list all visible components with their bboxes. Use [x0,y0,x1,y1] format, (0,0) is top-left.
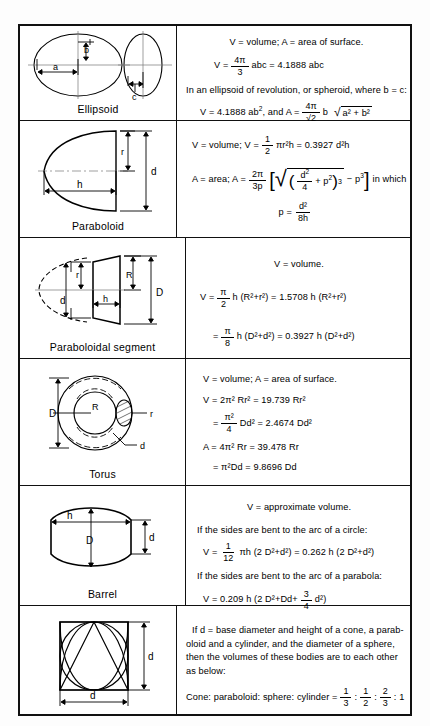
formula-line: V = 2π² Rr² = 19.739 Rr² [203,395,403,407]
dim-label-h: h [67,510,73,521]
formula-line: Cone: paraboloid: sphere: cylinder = 1 3… [186,687,404,708]
fraction-numerator: 3 [301,590,312,601]
fraction-numerator: 4π [302,102,319,113]
fraction-denominator: 3p [250,181,266,191]
formula-part: V = [200,292,214,304]
formula-line: In an ellipsoid of revolution, or sphero… [186,85,407,97]
formula-part: V = 4.1888 ab2, and A = [200,107,299,119]
formula-line: oloid and a cylinder, and the diameter o… [186,639,404,651]
formula-line: If the sides are bent to the arc of a ci… [197,525,403,537]
fraction: d² 8h [295,202,311,223]
fraction-numerator: 1 [262,135,273,146]
fraction-numerator: 1 [360,687,371,698]
fraction: π 2 [217,288,229,309]
dim-label-c: c [132,92,137,102]
fraction: π² 4 [221,413,236,434]
fraction: d24 [297,171,312,192]
dim-label-d-horizontal: d [90,690,96,701]
formula-line: as below: [186,666,404,678]
dim-label-d: d [151,166,157,177]
fraction-numerator: d2 [297,171,312,182]
formula-part: : 1 [394,692,405,704]
formula-part: in which [373,174,407,186]
formula-cell-ratios: If d = base diameter and height of a con… [177,606,411,714]
dim-label-a: a [53,62,58,72]
dim-label-R: R [126,270,133,280]
formula-part: πh (2 D²+d²) = 0.262 h (2 D²+d²) [239,547,374,559]
figure-paraboloid: r d h [20,121,176,220]
table-row: h D d Barrel V = approximate volume. If … [20,486,410,606]
formula-cell-paraboloid: V = volume; V = 1 2 πr²h = 0.3927 d²h A … [177,121,414,237]
formula-part: Dd² = 2.4674 Dd² [240,418,312,430]
figure-ellipsoid: b a c [20,26,176,103]
formula-part: p = [279,207,292,219]
formula-part: + p2 [315,176,332,188]
fraction: 1 3 [340,687,351,708]
figure-label-torus: Torus [89,468,116,485]
formula-line: If the sides are bent to the arc of a pa… [197,571,403,583]
fraction: 4π 3 [231,56,248,77]
figure-paraboloidal-segment: r R d D h [20,238,185,341]
figure-label-paraboloidal-segment: Paraboloidal segment [50,341,156,358]
formula-separator: : [354,692,357,704]
formula-line: V = 1 12 πh (2 D²+d²) = 0.262 h (2 D²+d²… [203,542,403,563]
dim-label-D: D [156,287,163,298]
fraction-denominator: 8h [295,213,311,223]
figure-cell-ratios: d d [20,606,177,714]
dim-label-d-vertical: d [148,651,154,662]
fraction: 2π 3p [249,170,266,191]
figure-cell-paraboloid: r d h Paraboloid [20,121,177,237]
fraction-denominator: 3 [234,67,245,77]
fraction: 4π √2 [302,102,319,123]
ellipsoid-diagram: b a c [20,28,176,102]
figure-cell-barrel: h D d Barrel [20,486,186,605]
formula-line: A = 4π² Rr = 39.478 Rr [203,442,403,454]
dim-label-r: r [150,409,153,419]
formula-part: V = volume; V = [192,140,259,152]
figure-label-ellipsoid: Ellipsoid [78,103,119,120]
formula-line: V = 4π 3 abc = 4.1888 abc [214,56,407,77]
fraction-denominator: 2 [360,698,371,708]
formula-part: b [323,107,328,119]
formula-line: A = area; A = 2π 3p [ √ ( d24 + p2 )3 [192,168,407,192]
figure-barrel: h D d [20,486,185,588]
fraction: 1 12 [220,542,236,563]
table-row: r R d D h Paraboloidal segment V = volum… [20,238,410,359]
square-root: √a² + b² [334,106,372,120]
formula-part: abc = 4.1888 abc [252,60,324,72]
formula-part: πr²h = 0.3927 d²h [276,140,350,152]
formula-part: h (D²+d²) = 0.3927 h (D²+d²) [237,331,355,343]
formula-separator: : [374,692,377,704]
fraction-numerator: d² [296,202,310,213]
formula-part: V = [203,547,217,559]
formula-part: V = [214,60,228,72]
dim-label-d: d [60,295,66,306]
radical-sign: √ [275,168,287,192]
fraction-numerator: 2π [249,170,266,181]
formula-cell-paraboloidal-segment: V = volume. V = π 2 h (R²+r²) = 1.5708 h… [186,238,410,358]
formula-table-page: b a c Ellipsoid V = volume; A = area of … [0,0,430,726]
formula-line: V = volume. [195,259,403,271]
dim-label-d: d [149,532,155,543]
figure-label-paraboloid: Paraboloid [72,220,124,237]
figure-torus: D R r d [20,359,185,468]
table-row: d d If d = base diameter and height of a… [20,606,410,714]
fraction-denominator: 2 [218,299,229,309]
formula-part: − p3 [347,174,364,186]
torus-diagram: D R r d [25,363,181,465]
figure-cell-paraboloidal-segment: r R d D h Paraboloidal segment [20,238,186,358]
formula-line: V = approximate volume. [195,502,403,514]
paraboloidal-segment-diagram: r R d D h [25,242,181,338]
fraction-numerator: π² [221,413,236,424]
figure-label-barrel: Barrel [88,588,117,605]
formula-line: p = d² 8h [186,202,407,223]
table-row: r d h Paraboloid V = volume; V = 1 2 πr²… [20,121,410,238]
formula-line: then the volumes of these bodies are to … [186,652,404,664]
figure-cell-ellipsoid: b a c Ellipsoid [20,26,177,120]
dim-label-R: R [92,402,99,412]
bracket-close: ] [364,171,370,189]
formula-line: = π²Dd = 9.8696 Dd [213,462,403,474]
fraction: π 8 [221,327,233,348]
formula-part: = [213,418,218,430]
formula-line: V = volume; V = 1 2 πr²h = 0.3927 d²h [192,135,407,156]
